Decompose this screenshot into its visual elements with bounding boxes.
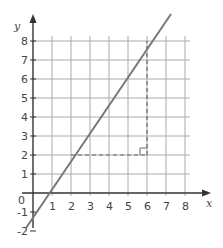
svg-text:7: 7 xyxy=(21,54,28,67)
y-tick-labels: 8 7 6 5 4 3 2 1 -1 -2 xyxy=(17,35,28,238)
svg-text:-2: -2 xyxy=(17,225,28,238)
y-axis-arrow-icon xyxy=(30,14,37,23)
y-axis-label: y xyxy=(13,20,21,33)
svg-text:5: 5 xyxy=(21,92,28,105)
axes xyxy=(22,20,205,228)
svg-text:1: 1 xyxy=(21,168,28,181)
svg-text:2: 2 xyxy=(21,149,28,162)
svg-text:6: 6 xyxy=(144,200,151,213)
svg-text:4: 4 xyxy=(21,111,28,124)
svg-text:4: 4 xyxy=(106,200,113,213)
svg-text:8: 8 xyxy=(21,35,28,48)
coordinate-plane: y x 0 1 2 3 4 5 6 7 8 8 7 6 5 4 3 2 1 -1… xyxy=(0,0,223,248)
svg-text:1: 1 xyxy=(49,200,56,213)
svg-text:5: 5 xyxy=(125,200,132,213)
svg-text:-1: -1 xyxy=(17,206,28,219)
svg-text:2: 2 xyxy=(68,200,75,213)
svg-text:3: 3 xyxy=(21,130,28,143)
data-line xyxy=(26,14,171,228)
x-tick-labels: 1 2 3 4 5 6 7 8 xyxy=(49,200,189,213)
x-axis-label: x xyxy=(206,197,213,210)
svg-text:8: 8 xyxy=(182,200,189,213)
right-angle-marker xyxy=(140,148,147,155)
x-axis-arrow-icon xyxy=(202,190,211,197)
svg-text:7: 7 xyxy=(163,200,170,213)
svg-text:6: 6 xyxy=(21,73,28,86)
svg-text:3: 3 xyxy=(87,200,94,213)
grid xyxy=(33,36,190,196)
